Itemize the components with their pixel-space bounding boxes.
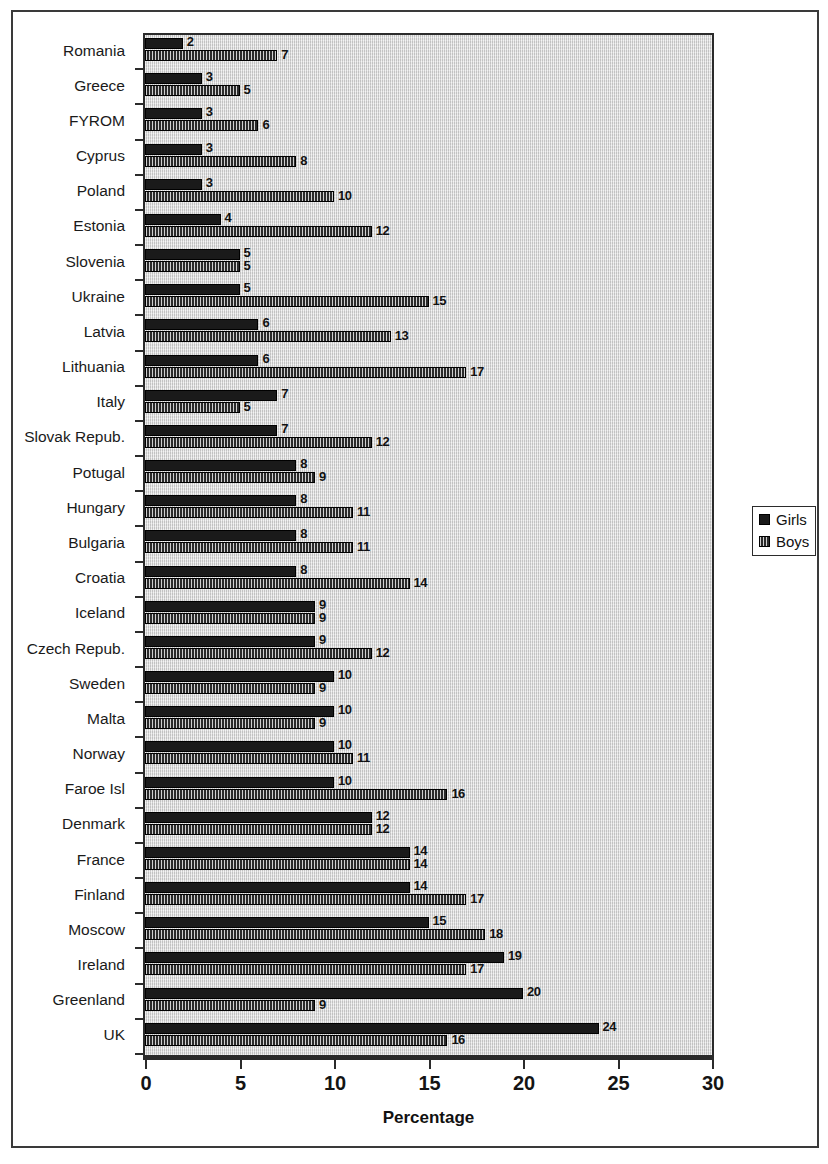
bar-girls — [145, 741, 334, 752]
bar-boys — [145, 789, 447, 800]
bar-boys — [145, 613, 315, 624]
plot-area: 2735363831041255515613617757128981181181… — [143, 33, 714, 1057]
bar-girls — [145, 812, 372, 823]
bar-value-label-girls: 8 — [300, 527, 307, 540]
bar-group: 1016 — [145, 774, 712, 809]
bar-girls — [145, 249, 240, 260]
bar-girls — [145, 144, 202, 155]
bar-girls — [145, 566, 296, 577]
y-axis-tick — [135, 68, 143, 70]
y-axis-label-poland: Poland — [77, 183, 125, 199]
y-axis-label-slovak-repub: Slovak Repub. — [24, 429, 125, 445]
bar-girls — [145, 1023, 599, 1034]
y-axis-tick — [135, 103, 143, 105]
bar-girls — [145, 706, 334, 717]
bar-value-label-girls: 20 — [527, 985, 540, 998]
y-axis-tick — [135, 983, 143, 985]
y-axis-tick — [135, 772, 143, 774]
bar-group: 2416 — [145, 1020, 712, 1055]
bar-value-label-boys: 6 — [262, 118, 269, 131]
y-axis-label-slovenia: Slovenia — [66, 254, 125, 270]
bar-group: 1011 — [145, 738, 712, 773]
bar-value-label-boys: 10 — [338, 189, 351, 202]
bar-value-label-boys: 5 — [244, 259, 251, 272]
y-axis-tick — [135, 139, 143, 141]
bar-value-label-boys: 11 — [357, 751, 370, 764]
x-axis-tick — [429, 1060, 431, 1069]
y-axis-label-potugal: Potugal — [72, 465, 125, 481]
bar-value-label-girls: 10 — [338, 774, 351, 787]
bar-value-label-girls: 19 — [508, 949, 521, 962]
bar-girls — [145, 108, 202, 119]
bar-value-label-boys: 17 — [470, 365, 483, 378]
bar-value-label-girls: 15 — [433, 914, 446, 927]
bar-value-label-girls: 24 — [603, 1020, 616, 1033]
bar-girls — [145, 847, 410, 858]
y-axis-tick — [135, 314, 143, 316]
bar-group: 912 — [145, 633, 712, 668]
bar-boys — [145, 226, 372, 237]
bar-girls — [145, 601, 315, 612]
bar-boys — [145, 331, 391, 342]
y-axis-label-hungary: Hungary — [66, 500, 125, 516]
y-axis-label-italy: Italy — [97, 394, 125, 410]
bar-value-label-boys: 11 — [357, 505, 370, 518]
bar-group: 1518 — [145, 914, 712, 949]
bar-value-label-girls: 8 — [300, 457, 307, 470]
bar-value-label-boys: 12 — [376, 822, 389, 835]
bar-girls — [145, 355, 258, 366]
chart-legend: Girls Boys — [752, 506, 816, 556]
bar-value-label-boys: 9 — [319, 681, 326, 694]
x-axis-tick — [240, 1060, 242, 1069]
y-axis-tick — [135, 209, 143, 211]
legend-label-boys: Boys — [776, 534, 809, 549]
bar-boys — [145, 718, 315, 729]
bar-group: 811 — [145, 492, 712, 527]
x-axis-tick-label-20: 20 — [513, 1073, 535, 1093]
bar-value-label-boys: 17 — [470, 962, 483, 975]
bar-value-label-girls: 8 — [300, 492, 307, 505]
x-axis-tick — [618, 1060, 620, 1069]
bar-value-label-boys: 7 — [281, 48, 288, 61]
y-axis-tick — [135, 807, 143, 809]
bar-value-label-boys: 5 — [244, 400, 251, 413]
bar-value-label-boys: 17 — [470, 892, 483, 905]
y-axis-tick — [135, 912, 143, 914]
bar-value-label-girls: 7 — [281, 422, 288, 435]
x-axis-tick — [712, 1060, 714, 1069]
bar-group: 811 — [145, 527, 712, 562]
bar-value-label-boys: 5 — [244, 83, 251, 96]
x-axis-tick-label-15: 15 — [418, 1073, 440, 1093]
bar-girls — [145, 214, 221, 225]
y-axis-label-norway: Norway — [72, 746, 125, 762]
bar-boys — [145, 648, 372, 659]
bar-chart-figure: RomaniaGreeceFYROMCyprusPolandEstoniaSlo… — [0, 0, 828, 1164]
bar-value-label-girls: 9 — [319, 598, 326, 611]
y-axis-label-finland: Finland — [74, 887, 125, 903]
hatched-square-icon — [759, 536, 770, 547]
bar-group: 1917 — [145, 949, 712, 984]
bar-group: 515 — [145, 281, 712, 316]
y-axis-label-ireland: Ireland — [78, 957, 125, 973]
bar-girls — [145, 917, 429, 928]
y-axis-tick — [135, 420, 143, 422]
bar-group: 38 — [145, 141, 712, 176]
bar-value-label-boys: 12 — [376, 224, 389, 237]
y-axis-label-sweden: Sweden — [69, 676, 125, 692]
bar-boys — [145, 964, 466, 975]
bar-boys — [145, 437, 372, 448]
y-axis-label-france: France — [77, 852, 125, 868]
y-axis-label-bulgaria: Bulgaria — [68, 535, 125, 551]
y-axis-label-denmark: Denmark — [62, 816, 125, 832]
bar-value-label-boys: 9 — [319, 611, 326, 624]
bar-value-label-girls: 10 — [338, 703, 351, 716]
x-axis-tick-label-30: 30 — [702, 1073, 724, 1093]
bar-group: 712 — [145, 422, 712, 457]
bar-value-label-girls: 9 — [319, 633, 326, 646]
bar-girls — [145, 636, 315, 647]
y-axis-tick — [135, 174, 143, 176]
bar-boys — [145, 120, 258, 131]
bar-girls — [145, 882, 410, 893]
bar-value-label-girls: 6 — [262, 316, 269, 329]
y-axis-tick — [135, 1018, 143, 1020]
